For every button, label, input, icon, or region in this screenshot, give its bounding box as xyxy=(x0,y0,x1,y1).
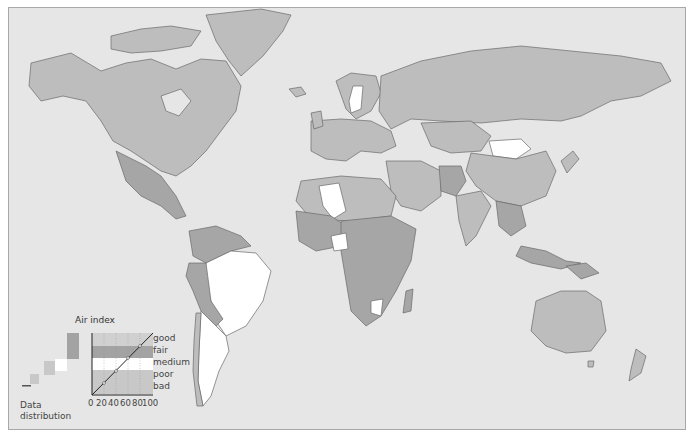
region-russia xyxy=(379,46,671,129)
region-kazakhstan xyxy=(421,121,491,153)
region-australia xyxy=(531,291,606,353)
region-madagascar xyxy=(403,289,413,313)
x-tick-40: 40 xyxy=(108,398,119,408)
data-distribution-label-1: Data xyxy=(20,400,42,410)
region-north-america xyxy=(29,53,241,176)
band-bad xyxy=(92,382,153,394)
region-japan xyxy=(561,151,579,173)
region-southeast-asia xyxy=(496,201,526,236)
x-tick-20: 20 xyxy=(96,398,107,408)
region-nigeria-region xyxy=(331,233,348,251)
region-europe xyxy=(311,119,396,161)
distribution-bar-medium xyxy=(55,359,67,371)
region-iceland xyxy=(289,87,306,97)
data-distribution-label-2: distribution xyxy=(20,411,71,421)
legend-label-fair: fair xyxy=(153,345,168,355)
distribution-bar-bad xyxy=(22,385,31,387)
legend-label-bad: bad xyxy=(153,381,170,391)
legend-label-poor: poor xyxy=(153,369,173,379)
map-frame xyxy=(8,7,686,430)
distribution-bar-poor xyxy=(30,374,39,384)
distribution-bar-fair xyxy=(67,333,79,359)
x-tick-100: 100 xyxy=(142,398,158,408)
legend-label-good: good xyxy=(153,333,175,343)
legend-label-medium: medium xyxy=(153,357,190,367)
region-india xyxy=(456,191,491,246)
region-southern-africa-white xyxy=(371,299,383,316)
legend-title: Air index xyxy=(75,315,115,325)
region-tasmania xyxy=(588,361,594,367)
band-good xyxy=(92,333,153,346)
region-new-zealand xyxy=(629,349,646,381)
region-afghanistan-pakistan xyxy=(439,166,466,196)
x-tick-0: 0 xyxy=(88,398,93,408)
x-tick-60: 60 xyxy=(120,398,131,408)
distribution-bar-poor2 xyxy=(44,361,55,375)
band-poor xyxy=(92,370,153,382)
region-canadian-arctic xyxy=(111,26,201,53)
band-fair xyxy=(92,346,153,358)
region-new-guinea xyxy=(566,263,599,279)
